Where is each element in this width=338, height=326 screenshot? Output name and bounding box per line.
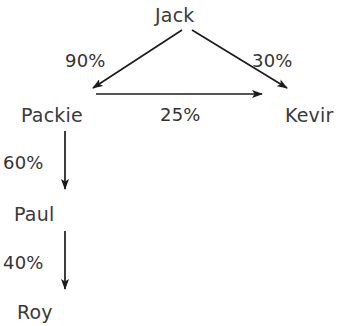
- edge-label-jack-to-packie: 90%: [65, 50, 106, 71]
- edge-label-jack-to-kevir: 30%: [252, 50, 293, 71]
- edge-label-packie-to-kevir: 25%: [160, 104, 201, 125]
- node-label-kevir: Kevir: [285, 104, 334, 126]
- node-label-jack: Jack: [155, 4, 195, 26]
- graph-diagram: Jack Packie Kevir Paul Roy 90% 30% 25% 6…: [0, 0, 338, 326]
- node-label-packie: Packie: [21, 104, 83, 126]
- edge-label-paul-to-roy: 40%: [3, 252, 44, 273]
- node-label-paul: Paul: [14, 203, 54, 225]
- edge-label-packie-to-paul: 60%: [3, 152, 44, 173]
- edge-jack-to-packie: [93, 30, 182, 88]
- node-label-roy: Roy: [17, 301, 53, 323]
- edge-layer: [0, 0, 338, 326]
